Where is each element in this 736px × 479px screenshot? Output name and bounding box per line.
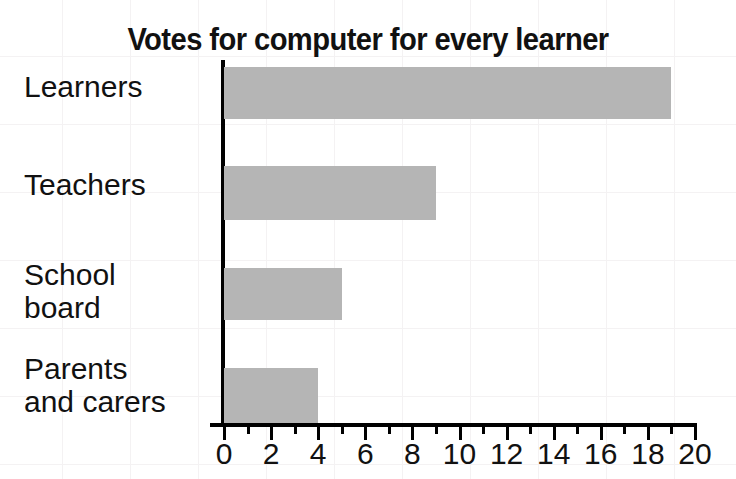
x-axis-minor-tick	[623, 425, 626, 434]
x-axis-tick-label: 18	[631, 437, 664, 471]
x-axis-minor-tick	[388, 425, 391, 434]
bar	[224, 67, 671, 119]
x-axis-minor-tick	[576, 425, 579, 434]
x-axis-minor-tick	[670, 425, 673, 434]
x-axis-minor-tick	[341, 425, 344, 434]
category-label: School board	[0, 258, 216, 324]
x-axis-tick-label: 12	[490, 437, 523, 471]
chart-title: Votes for computer for every learner	[22, 22, 714, 58]
category-label: Teachers	[0, 168, 216, 201]
bar	[224, 268, 342, 320]
bar	[224, 166, 436, 220]
x-axis-tick-label: 2	[263, 437, 280, 471]
x-axis-tick-label: 8	[404, 437, 421, 471]
bar	[224, 368, 318, 423]
x-axis-tick-label: 6	[357, 437, 374, 471]
x-axis-tick-label: 20	[678, 437, 711, 471]
category-label: Learners	[0, 70, 216, 103]
x-axis-minor-tick	[247, 425, 250, 434]
x-axis-minor-tick	[294, 425, 297, 434]
x-axis-minor-tick	[482, 425, 485, 434]
x-axis-minor-tick	[529, 425, 532, 434]
x-axis-tick-label: 16	[584, 437, 617, 471]
plot-area	[224, 62, 695, 425]
x-axis-tick-label: 4	[310, 437, 327, 471]
chart-page: Votes for computer for every learner Lea…	[0, 0, 736, 479]
x-axis-tick-label: 10	[443, 437, 476, 471]
x-axis-tick-label: 14	[537, 437, 570, 471]
x-axis-minor-tick	[435, 425, 438, 434]
x-axis-tick-label: 0	[216, 437, 233, 471]
category-label: Parents and carers	[0, 352, 216, 418]
